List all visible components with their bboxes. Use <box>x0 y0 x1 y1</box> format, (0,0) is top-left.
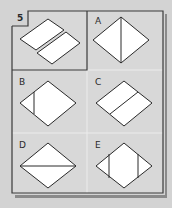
puzzle-frame <box>0 0 172 208</box>
puzzle-figure: 5 A B C D E <box>0 0 172 208</box>
option-e-label: E <box>95 140 101 150</box>
question-number-label: 5 <box>17 13 23 23</box>
option-c-label: C <box>95 77 101 87</box>
option-d-label: D <box>19 140 26 150</box>
option-a-label: A <box>95 16 101 26</box>
option-b-label: B <box>19 77 25 87</box>
